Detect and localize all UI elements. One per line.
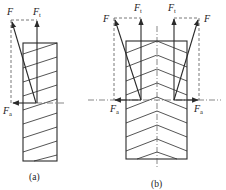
gear-body-a <box>23 43 57 161</box>
label-F-left-b: F <box>102 13 110 24</box>
panel-b: F Ft Ft F Fa Fa (b) <box>88 2 221 190</box>
label-Fa-right-b: Fa <box>193 103 203 115</box>
caption-a: (a) <box>29 172 40 183</box>
label-F-a: F <box>6 6 14 17</box>
tooth-hatching-a <box>23 43 57 161</box>
force-F-right-arrow-b <box>174 20 198 100</box>
force-F-arrow-a <box>12 22 36 103</box>
helical-gear-force-diagram: F Ft Fa (a) <box>0 0 226 190</box>
label-Fa-a: Fa <box>2 105 12 117</box>
label-Ft-left-b: Ft <box>133 2 142 14</box>
panel-a: F Ft Fa (a) <box>2 6 66 183</box>
caption-b: (b) <box>151 179 162 190</box>
label-Fa-left-b: Fa <box>109 103 119 115</box>
force-F-left-arrow-b <box>115 20 141 100</box>
label-Ft-right-b: Ft <box>167 2 176 14</box>
label-Ft-a: Ft <box>32 6 41 18</box>
label-F-right-b: F <box>203 13 211 24</box>
